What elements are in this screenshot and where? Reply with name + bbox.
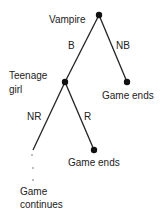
node-leaf-game-ends-1 — [124, 79, 130, 85]
node-leaf-game-ends-2 — [91, 147, 97, 153]
label-girl: girl — [9, 84, 22, 96]
label-vampire: Vampire — [49, 14, 86, 26]
label-edge-r: R — [84, 111, 91, 123]
continuation-dot — [32, 179, 34, 181]
label-edge-nb: NB — [116, 40, 130, 52]
label-game-ends-2: Game ends — [68, 157, 120, 169]
node-teenage-girl — [62, 79, 68, 85]
label-game: Game — [20, 186, 47, 198]
continuation-dot — [32, 167, 34, 169]
continuation-dot — [31, 154, 33, 156]
node-vampire — [96, 12, 102, 18]
label-game-ends-1: Game ends — [102, 90, 154, 102]
label-teenage: Teenage — [9, 70, 47, 82]
label-edge-b: B — [68, 40, 75, 52]
label-continues: continues — [20, 199, 63, 211]
label-edge-nr: NR — [27, 111, 41, 123]
